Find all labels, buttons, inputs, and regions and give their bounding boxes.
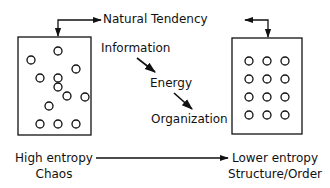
step-information: Information xyxy=(101,42,170,55)
right-state-line1: Lower entropy xyxy=(226,152,324,165)
natural-tendency-label: Natural Tendency xyxy=(103,13,208,26)
right-state-line2: Structure/Order xyxy=(226,168,324,181)
left-state-line2: Chaos xyxy=(14,168,94,181)
step-organization: Organization xyxy=(151,113,228,126)
left-state-label: High entropy Chaos xyxy=(14,152,94,181)
right-box-particles xyxy=(245,57,289,119)
step-energy: Energy xyxy=(150,77,192,90)
right-state-label: Lower entropy Structure/Order xyxy=(226,152,324,181)
left-state-line1: High entropy xyxy=(14,152,94,165)
left-box-particles xyxy=(27,47,89,128)
